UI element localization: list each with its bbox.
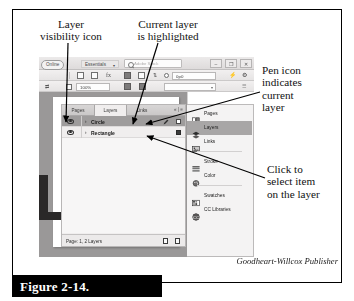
chevron-down-icon: ▾ [113, 62, 115, 70]
callout-layer-visibility: Layer visibility icon [26, 18, 116, 43]
window-edge-shadow [39, 175, 48, 215]
dock-divider [197, 185, 242, 186]
dock-item-layers[interactable]: Layers [187, 121, 252, 135]
maximize-button[interactable]: ❐ [225, 59, 237, 68]
column-divider [81, 116, 82, 127]
panel-menu-icon[interactable]: « | ≡ [174, 107, 183, 112]
callout-pen-icon: Pen icon indicates current layer [262, 64, 348, 114]
panel-dock: Pages Layers Links Stroke [187, 104, 254, 257]
workspace-selector[interactable]: Essentials ▾ [81, 60, 119, 68]
dock-item-links[interactable]: Links [187, 135, 252, 149]
scale-icon[interactable] [66, 84, 72, 90]
pages-icon [192, 111, 200, 119]
color-icon [192, 173, 200, 181]
layer-target-box[interactable] [176, 130, 181, 135]
svg-text:CC: CC [193, 214, 199, 219]
stepper-icon[interactable] [164, 73, 169, 78]
control-separator [69, 72, 70, 79]
layer-visibility-icon[interactable] [67, 130, 74, 135]
swatches-icon [192, 193, 200, 201]
figure-credit: Goodheart-Willcox Publisher [237, 256, 338, 266]
figure-caption: Figure 2-14. [20, 279, 89, 295]
workspace-label: Essentials [85, 62, 106, 67]
layers-panel-body [62, 138, 185, 233]
dock-item-pages[interactable]: Pages [187, 107, 252, 121]
pen-icon [163, 119, 169, 125]
dock-label: Links [204, 139, 215, 144]
measure-field-1[interactable]: 0p0 [172, 72, 216, 80]
layer-target-box[interactable] [176, 119, 181, 124]
overflow-icon[interactable]: ☰ [242, 83, 249, 90]
links-icon [192, 139, 200, 147]
layer-count-status: Page: 1, 2 Layers [66, 239, 102, 244]
align-top-icon[interactable] [124, 83, 131, 90]
layer-row[interactable]: › Rectangle [62, 127, 185, 138]
tab-links[interactable]: Links [129, 105, 155, 116]
layers-icon [192, 125, 200, 133]
eye-pupil [69, 120, 71, 122]
delete-layer-icon[interactable] [175, 238, 180, 244]
arrow-tool-icon[interactable]: ⇄ [45, 83, 52, 90]
gear-icon[interactable]: ⚙ [242, 72, 249, 79]
text-tool-icon[interactable]: fx [105, 72, 112, 79]
lightning-icon[interactable]: ⚡ [229, 72, 236, 79]
panel-status-icons [163, 238, 180, 244]
dock-item-swatches[interactable]: Swatches [187, 189, 252, 203]
chevron-down-icon: ▾ [211, 84, 213, 92]
callout-click-to-select: Click to select item on the layer [267, 163, 351, 200]
search-placeholder: Adobe Stock [134, 61, 158, 66]
figure-caption-bar: Figure 2-14. [12, 275, 162, 297]
rectangle-icon[interactable] [91, 72, 98, 79]
layers-panel: Pages Layers Links « | ≡ › Circle [61, 104, 186, 247]
tab-pages[interactable]: Pages [64, 105, 92, 116]
dock-label: Swatches [204, 193, 225, 198]
align-bottom-icon[interactable] [139, 83, 146, 90]
control-bar-row-1: fx ⇅ 0p0 ⚡ ⚙ [39, 70, 254, 81]
dock-label: Color [204, 173, 215, 178]
stroke-icon [192, 159, 200, 167]
dock-item-cc-libraries[interactable]: CC CC Libraries [187, 203, 252, 217]
disclosure-triangle-icon[interactable]: › [85, 119, 87, 124]
column-divider [81, 127, 82, 138]
layer-name: Rectangle [91, 130, 115, 136]
search-icon [128, 62, 134, 68]
disclosure-triangle-icon[interactable]: › [85, 130, 87, 135]
close-button[interactable]: ✕ [240, 59, 252, 68]
dock-label: Layers [204, 125, 218, 130]
dock-item-stroke[interactable]: Stroke [187, 155, 252, 169]
dock-label: CC Libraries [204, 207, 231, 212]
control-bar-row-2: ⇄ 100% ▾ ☰ [39, 81, 254, 92]
align-left-icon[interactable] [124, 72, 131, 79]
align-center-icon[interactable] [138, 72, 145, 79]
layers-panel-status-bar: Page: 1, 2 Layers [62, 234, 185, 246]
layer-name: Circle [91, 119, 105, 125]
callout-current-layer-highlighted: Current layer is highlighted [118, 18, 218, 43]
panel-tab-strip: Pages Layers Links « | ≡ [62, 105, 185, 116]
distribute-icon[interactable]: ⇅ [153, 72, 160, 79]
rectangle-frame-icon[interactable] [77, 72, 84, 79]
indesign-screenshot: Online Essentials ▾ Adobe Stock – ❐ ✕ fx [39, 57, 254, 257]
tab-layers[interactable]: Layers [94, 105, 127, 116]
dock-divider [197, 151, 242, 152]
eye-pupil [69, 131, 71, 133]
minimize-button[interactable]: – [210, 59, 222, 68]
online-button[interactable]: Online [41, 60, 64, 70]
new-layer-icon[interactable] [163, 238, 168, 244]
layer-visibility-icon[interactable] [67, 119, 74, 124]
cc-libraries-icon: CC [192, 207, 200, 215]
dock-label: Pages [204, 111, 218, 116]
dock-item-color[interactable]: Color [187, 169, 252, 183]
style-dropdown[interactable]: ▾ [164, 83, 216, 91]
figure-root: Layer visibility icon Current layer is h… [0, 0, 354, 301]
search-input[interactable]: Adobe Stock [124, 59, 182, 68]
window-controls: – ❐ ✕ [210, 59, 252, 68]
application-bar: Online Essentials ▾ Adobe Stock – ❐ ✕ [39, 57, 254, 70]
zoom-field[interactable]: 100% [76, 83, 110, 91]
dock-label: Stroke [204, 159, 218, 164]
layer-row[interactable]: › Circle [62, 116, 185, 127]
